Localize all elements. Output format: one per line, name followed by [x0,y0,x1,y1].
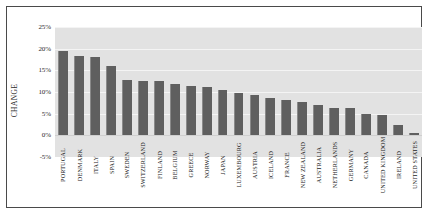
bar [74,56,84,135]
y-axis-tick-2: 15% [38,66,51,74]
y-axis-title: CHANGE [7,45,23,155]
x-axis-tick-labels: PORTUGALDENMARKITALYSPAINSWEDENSWITZERLA… [55,159,422,221]
x-axis-label-13: ICELAND [262,159,278,219]
x-axis-label-text: FRANCE [283,152,290,177]
x-axis-label-18: GERMANY [342,159,358,219]
zero-baseline [55,135,422,136]
x-axis-label-text: AUSTRALIA [315,147,322,183]
plot-area [55,27,422,157]
x-axis-label-11: LUXEMBOURG [231,159,247,219]
x-axis-label-4: SWEDEN [119,159,135,219]
y-axis-tick-4: 5% [42,110,51,118]
x-axis-label-text: JAPAN [219,155,226,174]
x-axis-label-10: JAPAN [215,159,231,219]
bar [393,125,403,135]
x-axis-label-text: SWITZERLAND [139,142,146,188]
bar [250,95,260,135]
gridline [55,27,422,28]
bar [377,115,387,136]
bar [234,93,244,135]
bar [170,84,180,135]
y-axis-tick-3: 10% [38,88,51,96]
x-axis-label-text: AUSTRIA [251,151,258,179]
bar [313,105,323,135]
bar [58,51,68,136]
x-axis-label-text: ITALY [91,156,98,174]
x-axis-label-20: UNITED KINGDOM [374,159,390,219]
x-axis-label-text: BELGIUM [171,150,178,179]
bar [154,81,164,136]
x-axis-label-text: IRELAND [395,151,402,179]
x-axis-label-text: NORWAY [203,151,210,178]
bar [409,133,419,135]
bar [106,66,116,135]
x-axis-label-6: FINLAND [151,159,167,219]
x-axis-label-text: GREECE [187,153,194,178]
bar [345,108,355,135]
x-axis-label-16: AUSTRALIA [310,159,326,219]
x-axis-label-7: BELGIUM [167,159,183,219]
bar [265,98,275,135]
x-axis-label-3: SPAIN [103,159,119,219]
x-axis-label-text: SPAIN [107,156,114,174]
x-axis-label-5: SWITZERLAND [135,159,151,219]
chart-figure: CHANGE 25%20%15%10%5%0%-5% PORTUGALDENMA… [6,6,422,208]
x-axis-label-8: GREECE [183,159,199,219]
x-axis-label-text: UNITED KINGDOM [379,137,386,194]
x-axis-label-14: FRANCE [278,159,294,219]
x-axis-label-2: ITALY [87,159,103,219]
y-axis-tick-6: -5% [40,153,51,161]
x-axis-label-text: NEW ZEALAND [299,142,306,188]
y-axis-tick-1: 20% [38,45,51,53]
x-axis-label-1: DENMARK [71,159,87,219]
x-axis-label-text: PORTUGAL [59,148,66,182]
x-axis-label-0: PORTUGAL [55,159,71,219]
x-axis-label-text: NETHERLANDS [331,142,338,189]
y-axis-tick-labels: 25%20%15%10%5%0%-5% [23,21,53,187]
x-axis-label-21: IRELAND [390,159,406,219]
bar [186,86,196,135]
x-axis-label-text: LUXEMBOURG [235,142,242,187]
x-axis-label-text: ICELAND [267,151,274,179]
bar [297,102,307,135]
bar [202,87,212,136]
y-axis-tick-0: 25% [38,23,51,31]
bar [281,100,291,136]
y-axis-title-label: CHANGE [11,83,20,117]
x-axis-label-15: NEW ZEALAND [294,159,310,219]
x-axis-label-text: DENMARK [75,149,82,181]
x-axis-label-text: SWEDEN [123,152,130,179]
bar [90,57,100,135]
x-axis-label-17: NETHERLANDS [326,159,342,219]
x-axis-label-text: GERMANY [347,149,354,181]
x-axis-label-19: CANADA [358,159,374,219]
bar [122,80,132,135]
bar [361,114,371,136]
gridline [55,49,422,50]
x-axis-label-text: UNITED STATES [411,141,418,189]
bar [329,108,339,136]
x-axis-label-9: NORWAY [199,159,215,219]
bar [218,90,228,135]
bar [138,81,148,136]
y-axis-tick-5: 0% [42,131,51,139]
x-axis-label-text: FINLAND [155,151,162,179]
x-axis-label-22: UNITED STATES [406,159,422,219]
x-axis-label-12: AUSTRIA [246,159,262,219]
x-axis-label-text: CANADA [363,151,370,178]
